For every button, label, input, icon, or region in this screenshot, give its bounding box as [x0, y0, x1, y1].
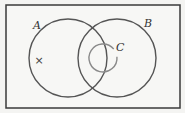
set-a-label: A: [32, 19, 41, 32]
cross-marker: ×: [34, 54, 43, 67]
set-c-label: C: [116, 41, 125, 54]
venn-diagram: A B C ×: [0, 0, 185, 113]
set-b-label: B: [143, 17, 152, 30]
